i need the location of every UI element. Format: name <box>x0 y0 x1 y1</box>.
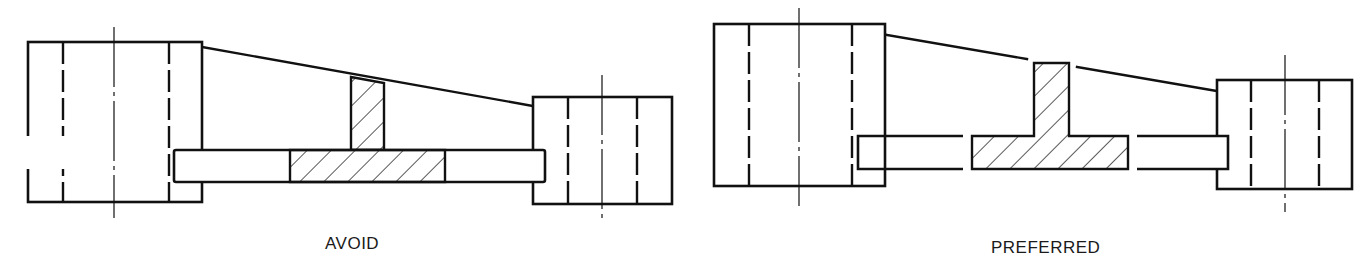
avoid-figure <box>28 27 672 220</box>
taper-edge-2 <box>1077 67 1217 91</box>
preferred-caption: PREFERRED <box>991 238 1100 258</box>
right-plate-fill <box>1137 136 1228 169</box>
hatched-web-section <box>351 77 384 150</box>
drawing-canvas <box>0 0 1371 267</box>
hatched-flange-section <box>290 150 445 182</box>
left-plate-fill <box>0 136 105 169</box>
taper-edge-1 <box>887 35 1027 59</box>
avoid-caption: AVOID <box>325 234 379 254</box>
hatched-tee-section <box>972 63 1128 169</box>
